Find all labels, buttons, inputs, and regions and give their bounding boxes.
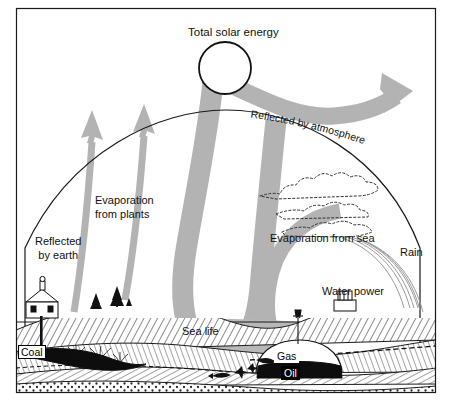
energy-flow-diagram: Reflected by atmosphere Total solar ener… [0, 0, 451, 420]
water-power-label: Water power [322, 285, 384, 297]
evaporation-from-plants-arrowhead [133, 104, 155, 138]
gas-label: Gas [274, 349, 299, 363]
evaporation-from-sea-label: Evaporation from sea [270, 232, 375, 244]
sea-life-label: Sea life [182, 325, 219, 337]
sun-circle-icon [199, 42, 251, 94]
tree-icon [110, 286, 124, 307]
evaporation-from-plants-label: Evaporation from plants [95, 193, 154, 221]
tree-icon [90, 293, 102, 309]
mine-headframe-building-icon [26, 276, 58, 318]
oil-label: Oil [281, 366, 300, 380]
geology-strata [16, 294, 436, 394]
coal-label: Coal [18, 345, 46, 359]
strata-topsoil [16, 294, 436, 352]
rain-label: Rain [400, 246, 423, 258]
diagram-canvas: Reflected by atmosphere [0, 0, 451, 420]
evaporation-from-plants-line1: Evaporation [95, 193, 154, 207]
evaporation-from-plants-line2: from plants [95, 207, 154, 221]
reflected-by-earth-line2: by earth [35, 248, 81, 262]
reflected-by-earth-line1: Reflected [35, 234, 81, 248]
reflected-by-earth-arrowhead [81, 110, 103, 144]
reflected-by-earth-label: Reflected by earth [35, 234, 81, 262]
total-solar-energy-label: Total solar energy [188, 26, 279, 38]
